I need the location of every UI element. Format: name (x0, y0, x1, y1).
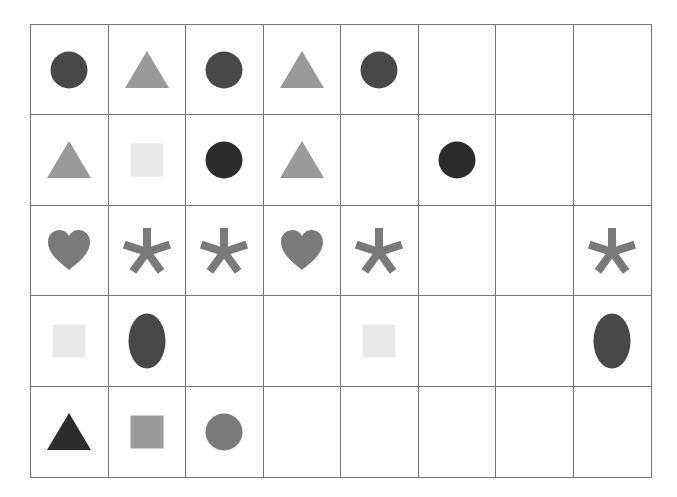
grid-cell-r1-c1 (31, 25, 109, 115)
grid-cell-r2-c8 (574, 115, 652, 205)
grid-cell-r1-c5 (341, 25, 419, 115)
grid-cell-r2-c7 (496, 115, 574, 205)
grid-cell-r5-c1 (31, 387, 109, 477)
grid-cell-r5-c2 (109, 387, 187, 477)
grid-cell-r2-c4 (264, 115, 342, 205)
grid-cell-r2-c6 (419, 115, 497, 205)
circle-icon (194, 402, 254, 462)
grid-cell-r3-c6 (419, 206, 497, 296)
square-icon (117, 402, 177, 462)
grid-cell-r1-c7 (496, 25, 574, 115)
grid-cell-r4-c5 (341, 296, 419, 386)
triangle-icon (39, 402, 99, 462)
grid-cell-r4-c3 (186, 296, 264, 386)
square-icon (39, 311, 99, 371)
grid-cell-r1-c2 (109, 25, 187, 115)
grid-cell-r3-c2 (109, 206, 187, 296)
circle-icon (427, 130, 487, 190)
triangle-icon (39, 130, 99, 190)
grid-cell-r1-c4 (264, 25, 342, 115)
grid-cell-r5-c4 (264, 387, 342, 477)
grid-cell-r3-c1 (31, 206, 109, 296)
circle-icon (39, 40, 99, 100)
shape-grid (30, 24, 652, 478)
grid-cell-r2-c5 (341, 115, 419, 205)
asterisk-icon (117, 220, 177, 280)
grid-cell-r3-c4 (264, 206, 342, 296)
asterisk-icon (349, 220, 409, 280)
grid-cell-r4-c8 (574, 296, 652, 386)
triangle-icon (272, 130, 332, 190)
grid-cell-r1-c3 (186, 25, 264, 115)
grid-cell-r5-c6 (419, 387, 497, 477)
triangle-icon (117, 40, 177, 100)
grid-cell-r4-c6 (419, 296, 497, 386)
circle-icon (349, 40, 409, 100)
square-icon (349, 311, 409, 371)
asterisk-icon (582, 220, 642, 280)
asterisk-icon (194, 220, 254, 280)
grid-cell-r3-c3 (186, 206, 264, 296)
grid-cell-r4-c2 (109, 296, 187, 386)
grid-cell-r5-c7 (496, 387, 574, 477)
triangle-icon (272, 40, 332, 100)
grid-cell-r3-c7 (496, 206, 574, 296)
circle-icon (194, 40, 254, 100)
grid-cell-r5-c3 (186, 387, 264, 477)
heart-icon (272, 220, 332, 280)
grid-cell-r3-c5 (341, 206, 419, 296)
grid-cell-r5-c8 (574, 387, 652, 477)
grid-cell-r1-c8 (574, 25, 652, 115)
grid-cell-r4-c7 (496, 296, 574, 386)
grid-cell-r2-c2 (109, 115, 187, 205)
ellipse-icon (117, 311, 177, 371)
ellipse-icon (582, 311, 642, 371)
grid-cell-r2-c1 (31, 115, 109, 205)
heart-icon (39, 220, 99, 280)
grid-cell-r4-c4 (264, 296, 342, 386)
grid-cell-r1-c6 (419, 25, 497, 115)
circle-icon (194, 130, 254, 190)
grid-cell-r5-c5 (341, 387, 419, 477)
grid-cell-r3-c8 (574, 206, 652, 296)
square-icon (117, 130, 177, 190)
grid-cell-r4-c1 (31, 296, 109, 386)
grid-cell-r2-c3 (186, 115, 264, 205)
